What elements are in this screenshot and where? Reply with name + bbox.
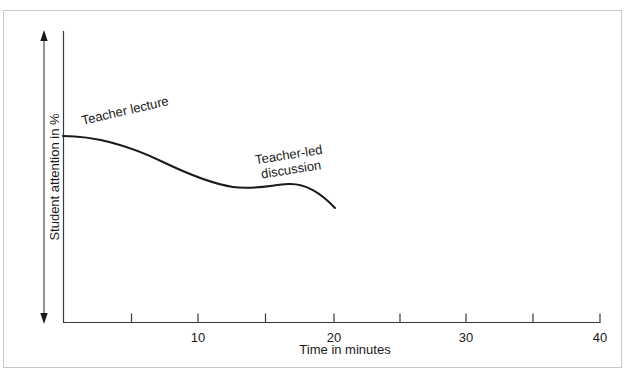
x-axis-ticks	[132, 314, 601, 323]
x-tick-label-30: 30	[459, 330, 473, 345]
x-axis-title: Time in minutes	[299, 342, 390, 357]
x-tick-label-40: 40	[593, 330, 607, 345]
y-axis-title: Student attention in %	[47, 113, 62, 240]
chart-plot-area	[0, 0, 626, 371]
x-tick-label-10: 10	[191, 330, 205, 345]
attention-chart-figure: 10 20 30 40 Time in minutes Student atte…	[0, 0, 626, 371]
